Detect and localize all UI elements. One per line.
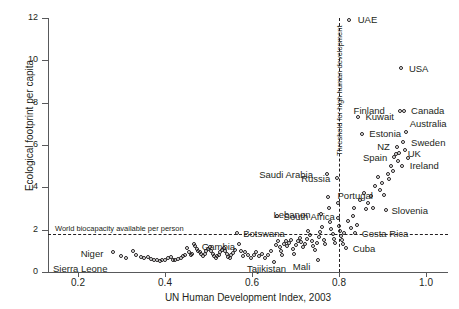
y-tick-label: 6	[12, 139, 38, 149]
x-tick-label: 0.6	[232, 277, 272, 288]
data-point	[320, 225, 324, 229]
y-tick-mark	[42, 230, 48, 231]
data-point	[124, 256, 128, 260]
data-point	[378, 188, 382, 192]
data-point	[331, 232, 335, 236]
x-axis-title: UN Human Development Index, 2003	[48, 292, 448, 303]
y-tick-label: 10	[12, 54, 38, 64]
y-tick-label: 4	[12, 181, 38, 191]
point-label-gambia: Gambia	[202, 241, 235, 252]
point-label-nz: NZ	[377, 141, 390, 152]
y-tick-mark	[42, 187, 48, 188]
point-label-tajikistan: Tajikistan	[247, 263, 286, 274]
data-point	[366, 201, 370, 205]
point-label-estonia: Estonia	[369, 128, 401, 139]
data-point	[401, 140, 405, 144]
data-point	[308, 233, 312, 237]
y-tick-mark	[42, 18, 48, 19]
data-point	[336, 201, 340, 205]
point-label-uae: UAE	[358, 14, 378, 25]
data-point	[303, 242, 307, 246]
data-point	[323, 242, 327, 246]
data-point	[260, 252, 264, 256]
data-point	[119, 254, 123, 258]
point-label-botswana: Botswana	[243, 228, 285, 239]
data-point	[355, 223, 359, 227]
data-point	[382, 193, 386, 197]
data-point	[371, 206, 375, 210]
point-label-australia: Australia	[410, 118, 447, 129]
data-point	[301, 245, 305, 249]
data-point	[336, 216, 340, 220]
y-tick-label: 2	[12, 224, 38, 234]
data-point	[396, 159, 400, 163]
data-point	[395, 145, 399, 149]
data-point	[389, 164, 393, 168]
data-point	[134, 253, 138, 257]
data-point	[349, 226, 353, 230]
data-point	[400, 164, 404, 168]
data-point	[111, 250, 115, 254]
data-point	[360, 132, 364, 136]
data-point	[241, 254, 245, 258]
point-label-kuwait: Kuwait	[365, 111, 394, 122]
data-point	[266, 253, 270, 257]
point-label-niger: Niger	[81, 248, 104, 259]
point-label-ireland: Ireland	[410, 160, 439, 171]
data-point	[318, 230, 322, 234]
data-point	[313, 248, 317, 252]
data-point	[380, 181, 384, 185]
point-label-usa: USA	[409, 63, 429, 74]
y-tick-label: 8	[12, 97, 38, 107]
data-point	[190, 252, 194, 256]
data-point	[310, 239, 314, 243]
data-point	[402, 109, 406, 113]
data-point	[315, 241, 319, 245]
data-point	[399, 66, 403, 70]
point-label-mali: Mali	[293, 261, 310, 272]
data-point	[289, 238, 293, 242]
data-point	[340, 238, 344, 242]
point-label-canada: Canada	[411, 105, 444, 116]
x-tick-label: 0.2	[58, 277, 98, 288]
x-tick-label: 0.8	[319, 277, 359, 288]
point-label-costa-rica: Costa Rica	[362, 228, 408, 239]
data-point	[347, 18, 351, 22]
data-point	[344, 246, 348, 250]
data-point	[404, 130, 408, 134]
data-point	[384, 208, 388, 212]
data-point	[322, 238, 326, 242]
data-point	[352, 206, 356, 210]
point-label-sweden: Sweden	[411, 137, 445, 148]
data-point	[397, 151, 401, 155]
y-tick-mark	[42, 103, 48, 104]
point-label-russia: Russia	[301, 173, 330, 184]
x-tick-label: 0.4	[145, 277, 185, 288]
point-label-south-africa: South Africa	[284, 211, 335, 222]
data-point	[403, 148, 407, 152]
y-tick-label: 0	[12, 266, 38, 276]
data-point	[291, 247, 295, 251]
data-point	[327, 206, 331, 210]
data-point	[294, 243, 298, 247]
data-point	[346, 219, 350, 223]
data-point	[337, 224, 341, 228]
ecological-footprint-scatter-chart: Ecological footprint per capita UN Human…	[0, 0, 459, 309]
data-point	[292, 252, 296, 256]
y-tick-mark	[42, 60, 48, 61]
data-point	[276, 239, 280, 243]
data-point	[280, 253, 284, 257]
data-point	[333, 241, 337, 245]
x-tick-label: 1.0	[406, 277, 446, 288]
point-label-slovenia: Slovenia	[392, 205, 428, 216]
data-point	[316, 258, 320, 262]
high-development-threshold-label: Threshold for high human development	[335, 26, 344, 157]
data-point	[386, 172, 390, 176]
data-point	[269, 249, 273, 253]
point-label-sierra-leone: Sierra Leone	[53, 263, 107, 274]
data-point	[329, 227, 333, 231]
point-label-uk: UK	[408, 148, 421, 159]
data-point	[305, 237, 309, 241]
data-point	[376, 175, 380, 179]
y-tick-mark	[42, 272, 48, 273]
